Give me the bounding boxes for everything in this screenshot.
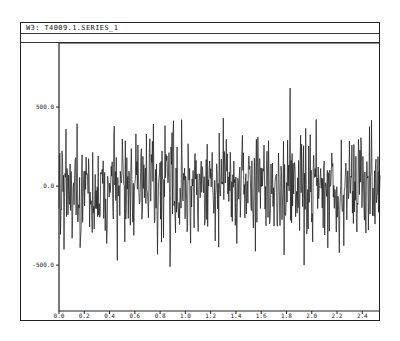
y-tick-label: 500.0	[36, 103, 54, 110]
x-tick-label: 2.2	[332, 312, 343, 319]
x-tick-label: 2.4	[357, 312, 368, 319]
y-tick-label: 0.0	[43, 182, 54, 189]
x-tick-label: 0.2	[79, 312, 90, 319]
x-tick-label: 1.8	[281, 312, 292, 319]
x-tick-label: 2.0	[306, 312, 317, 319]
x-tick-label: 0.0	[54, 312, 65, 319]
y-tick-label: -500.0	[32, 261, 54, 268]
line-chart: 500.00.0-500.0 0.00.20.40.60.81.01.21.41…	[0, 0, 400, 341]
x-tick-label: 0.8	[155, 312, 166, 319]
x-tick-label: 0.6	[129, 312, 140, 319]
x-tick-label: 1.0	[180, 312, 191, 319]
series-line	[59, 88, 380, 267]
x-axis-ticks: 0.00.20.40.60.81.01.21.41.61.82.02.22.4	[54, 311, 369, 319]
x-tick-label: 1.4	[231, 312, 242, 319]
x-tick-label: 0.4	[104, 312, 115, 319]
x-tick-label: 1.2	[205, 312, 216, 319]
y-axis-ticks: 500.00.0-500.0	[32, 103, 59, 268]
x-tick-label: 1.6	[256, 312, 267, 319]
